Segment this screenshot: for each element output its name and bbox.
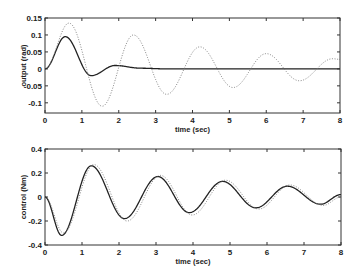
x-tick-label: 5 bbox=[228, 248, 233, 257]
control-dotted-line bbox=[45, 165, 341, 233]
x-tick-label: 5 bbox=[227, 116, 232, 125]
x-tick-label: 7 bbox=[302, 248, 307, 257]
control-solid-line bbox=[45, 166, 341, 236]
output-y-axis-label: output (rad) bbox=[19, 44, 28, 87]
output-plot: 0123456780.150.10.050-0.05-0.1time (sec)… bbox=[19, 14, 343, 134]
x-tick-label: 6 bbox=[264, 116, 269, 125]
control-y-axis-label: control (Nm) bbox=[19, 174, 28, 219]
x-tick-label: 7 bbox=[301, 116, 306, 125]
x-tick-label: 4 bbox=[190, 116, 195, 125]
x-tick-label: 0 bbox=[43, 248, 48, 257]
y-tick-label: 0 bbox=[38, 65, 43, 74]
x-tick-label: 1 bbox=[80, 248, 85, 257]
x-tick-label: 8 bbox=[339, 248, 344, 257]
output-x-axis-label: time (sec) bbox=[175, 125, 211, 134]
x-tick-label: 6 bbox=[265, 248, 270, 257]
x-tick-label: 2 bbox=[117, 248, 122, 257]
output-dotted-line bbox=[45, 23, 340, 106]
y-tick-label: -0.2 bbox=[28, 217, 42, 226]
x-tick-label: 2 bbox=[117, 116, 122, 125]
control-x-axis-label: time (sec) bbox=[175, 257, 211, 266]
x-tick-label: 4 bbox=[191, 248, 196, 257]
x-tick-label: 8 bbox=[338, 116, 343, 125]
y-tick-label: 0.1 bbox=[31, 31, 43, 40]
x-tick-label: 3 bbox=[153, 116, 158, 125]
y-tick-label: 0.05 bbox=[26, 48, 42, 57]
x-tick-label: 1 bbox=[80, 116, 85, 125]
y-tick-label: 0.4 bbox=[31, 145, 43, 154]
x-tick-label: 0 bbox=[43, 116, 48, 125]
y-tick-label: -0.4 bbox=[28, 241, 42, 250]
control-plot: 0123456780.40.20-0.2-0.4time (sec)contro… bbox=[19, 145, 344, 266]
y-tick-label: -0.1 bbox=[28, 99, 42, 108]
control-axes-frame bbox=[45, 149, 341, 245]
y-tick-label: 0 bbox=[38, 193, 43, 202]
y-tick-label: 0.2 bbox=[31, 169, 43, 178]
output-axes-frame bbox=[45, 18, 340, 113]
output-solid-line bbox=[45, 37, 340, 76]
figure: 0123456780.150.10.050-0.05-0.1time (sec)… bbox=[0, 0, 360, 275]
y-tick-label: 0.15 bbox=[26, 14, 42, 23]
x-tick-label: 3 bbox=[154, 248, 159, 257]
